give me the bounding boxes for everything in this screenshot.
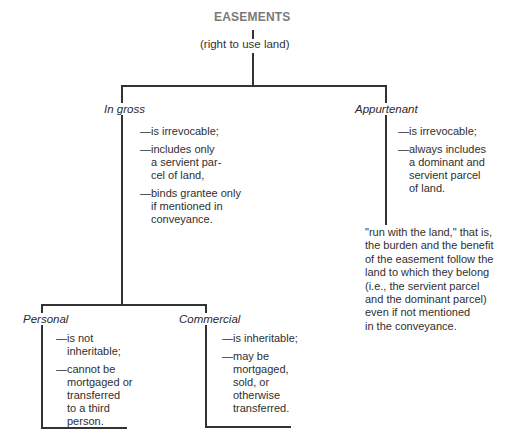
- root-subtitle: (right to use land): [200, 38, 290, 50]
- in-gross-list: —is irrevocable; —includes only a servie…: [140, 125, 260, 231]
- trunk-line: [252, 53, 254, 86]
- lower-split-line: [41, 304, 207, 306]
- list-item: —includes only a servient par- cel of la…: [140, 143, 260, 182]
- root-title: EASEMENTS: [214, 10, 290, 24]
- appurtenant-note: "run with the land," that is, the burden…: [365, 226, 510, 333]
- appurtenant-label: Appurtenant: [354, 103, 419, 115]
- in-gross-label: In gross: [103, 103, 146, 115]
- personal-list: —is not inheritable; —cannot be mortgage…: [56, 332, 136, 433]
- list-item: —binds grantee only if mentioned in conv…: [140, 187, 260, 226]
- list-item: —cannot be mortgaged or transferred to a…: [56, 363, 136, 428]
- commercial-list: —is inheritable; —may be mortgaged, sold…: [222, 332, 312, 420]
- list-item: —may be mortgaged, sold, or otherwise tr…: [222, 350, 312, 415]
- list-item: —always includes a dominant and servient…: [398, 143, 508, 195]
- in-gross-line: [121, 85, 123, 305]
- list-item: —is not inheritable;: [56, 332, 136, 358]
- list-item: —is inheritable;: [222, 332, 312, 345]
- commercial-bottom-line: [205, 426, 291, 428]
- list-item: —is irrevocable;: [398, 125, 508, 138]
- appurtenant-list: —is irrevocable; —always includes a domi…: [398, 125, 508, 200]
- personal-label: Personal: [22, 313, 69, 325]
- list-item: —is irrevocable;: [140, 125, 260, 138]
- commercial-label: Commercial: [178, 313, 241, 325]
- top-split-line: [121, 85, 386, 87]
